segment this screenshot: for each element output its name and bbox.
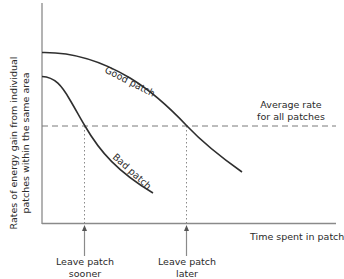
leave-later-label-line1: Leave patch — [151, 256, 223, 268]
leave-sooner-label: Leave patch sooner — [49, 256, 121, 279]
leave-sooner-label-line2: sooner — [49, 268, 121, 279]
good-patch-curve — [42, 52, 242, 172]
average-rate-label: Average rate for all patches — [246, 99, 336, 123]
y-axis-label: Rates of energy gain from individual pat… — [8, 43, 32, 243]
leave-later-label-line2: later — [151, 268, 223, 279]
average-rate-label-line2: for all patches — [246, 111, 336, 123]
y-axis-label-line1: Rates of energy gain from individual — [8, 43, 20, 243]
leave-sooner-label-line1: Leave patch — [49, 256, 121, 268]
y-axis-label-line2: patches within the same area — [20, 43, 32, 243]
x-axis-label: Time spent in patch — [250, 231, 344, 243]
average-rate-label-line1: Average rate — [246, 99, 336, 111]
leave-later-label: Leave patch later — [151, 256, 223, 279]
arrow-up-icon — [82, 225, 87, 256]
arrow-up-icon — [184, 225, 189, 256]
